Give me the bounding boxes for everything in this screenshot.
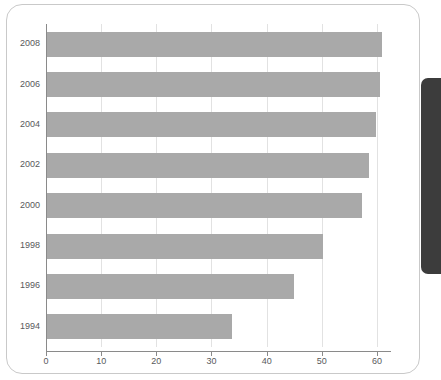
y-axis-tick-label: 2008: [20, 38, 40, 49]
y-axis-tick-label: 1998: [20, 240, 40, 251]
plot-inner: [46, 24, 388, 347]
y-axis-tick-label: 1994: [20, 321, 40, 332]
x-axis-tick-label: 30: [206, 356, 216, 366]
plot-area: [46, 24, 391, 352]
bar: [47, 32, 382, 57]
bar: [47, 153, 369, 178]
page-edge-strip: [421, 78, 441, 274]
y-axis-tick-label: 2002: [20, 159, 40, 170]
bar: [47, 72, 380, 97]
bar: [47, 193, 362, 218]
y-axis-tick-label: 1996: [20, 280, 40, 291]
bar: [47, 112, 376, 137]
chart-screenshot: 20082006200420022000199819961994 0102030…: [0, 0, 441, 380]
bar: [47, 314, 232, 339]
bar: [47, 274, 294, 299]
y-axis-tick-label: 2006: [20, 79, 40, 90]
x-axis-tick-label: 10: [96, 356, 106, 366]
y-axis-tick-label: 2004: [20, 119, 40, 130]
y-axis-line: [46, 24, 47, 352]
x-axis-tick-label: 20: [151, 356, 161, 366]
y-axis-labels: 20082006200420022000199819961994: [0, 24, 40, 352]
y-axis-tick-label: 2000: [20, 200, 40, 211]
bar: [47, 234, 323, 259]
x-axis-tick-label: 0: [43, 356, 48, 366]
x-axis-tick-label: 40: [262, 356, 272, 366]
x-axis-tick-label: 60: [372, 356, 382, 366]
x-axis-line: [46, 351, 391, 352]
x-axis-tick-label: 50: [317, 356, 327, 366]
x-axis-labels: 0102030405060: [46, 356, 396, 370]
